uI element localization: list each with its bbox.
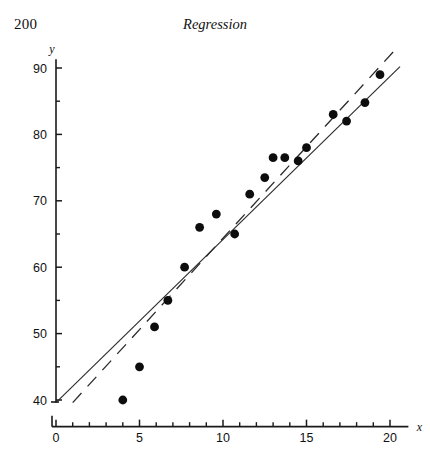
dashed-regression-line [73,48,397,403]
data-point [150,323,159,332]
running-head: 200 Regression [0,16,430,38]
x-tick-label: 5 [136,431,143,445]
data-point [118,396,127,405]
data-point [163,296,172,305]
y-axis: 405060708090 [33,59,62,407]
x-axis-title: x [416,420,423,434]
y-tick-label: 40 [33,394,47,408]
data-point [260,173,269,182]
y-axis-title: y [48,42,55,56]
y-tick-label: 80 [33,128,47,142]
data-point [195,223,204,232]
y-tick-label: 70 [33,194,47,208]
data-point [302,143,311,152]
running-head-title: Regression [0,16,430,33]
x-axis: 05101520 [52,416,408,445]
y-tick-label: 60 [33,261,47,275]
figure-page: 200 Regression 405060708090 05101520 yx [0,0,430,470]
data-point [212,210,221,219]
data-point [280,153,289,162]
data-point [180,263,189,272]
data-point [342,117,351,126]
x-tick-label: 0 [53,431,60,445]
data-points [118,70,384,404]
data-point [294,157,303,166]
x-tick-label: 15 [300,431,314,445]
data-point [230,230,239,239]
scatter-plot-figure: 405060708090 05101520 yx [0,38,430,470]
y-tick-label: 90 [33,62,47,76]
data-point [329,110,338,119]
regression-lines [56,48,400,403]
scatter-plot-svg: 405060708090 05101520 yx [0,38,430,470]
data-point [245,190,254,199]
x-tick-label: 20 [383,431,397,445]
data-point [361,98,370,107]
data-point [376,70,385,79]
x-tick-label: 10 [216,431,230,445]
data-point [269,153,278,162]
solid-regression-line [56,67,400,403]
y-tick-label: 50 [33,327,47,341]
data-point [135,362,144,371]
